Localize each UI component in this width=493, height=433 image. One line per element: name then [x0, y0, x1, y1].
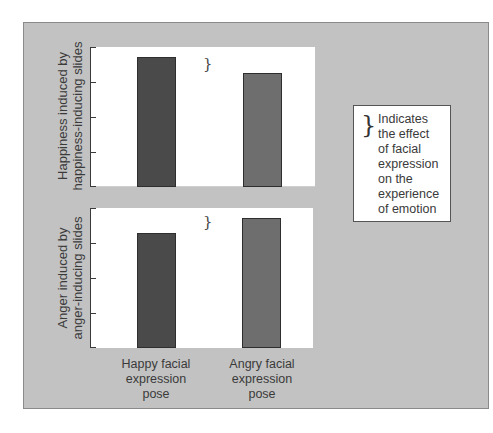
legend-box: } Indicates the effect of facial express… — [353, 105, 451, 222]
top-effect-brace-icon: } — [203, 57, 213, 72]
bottom-y-tick — [90, 208, 96, 209]
x-label-angry-line3: pose — [207, 387, 317, 402]
top-y-tick — [90, 117, 96, 118]
top-y-tick — [90, 82, 96, 83]
top-y-tick — [90, 152, 96, 153]
bottom-y-axis-label-line1: Anger induced by — [55, 193, 70, 363]
bottom-y-tick — [90, 313, 96, 314]
legend-line: experience — [378, 187, 450, 202]
bottom-y-tick — [90, 278, 96, 279]
x-label-happy-line3: pose — [101, 387, 211, 402]
bottom-bar-happy-pose — [137, 233, 176, 348]
bottom-y-tick — [90, 243, 96, 244]
legend-text: Indicates the effect of facial expressio… — [378, 112, 450, 217]
legend-line: expression — [378, 157, 450, 172]
bottom-y-axis-label-line2: anger-inducing slides — [70, 193, 85, 363]
x-label-happy-pose: Happy facial expression pose — [101, 357, 211, 402]
legend-line: on the — [378, 172, 450, 187]
top-bar-angry-pose — [243, 73, 282, 187]
x-label-angry-line1: Angry facial — [207, 357, 317, 372]
top-y-axis-label-line1: Happiness induced by — [55, 31, 70, 201]
legend-brace-icon: } — [361, 113, 376, 137]
legend-line: of emotion — [378, 202, 450, 217]
x-label-angry-line2: expression — [207, 372, 317, 387]
bottom-bar-angry-pose — [242, 218, 281, 348]
bottom-y-tick — [90, 347, 96, 348]
legend-line: the effect — [378, 127, 450, 142]
legend-line: of facial — [378, 142, 450, 157]
x-label-angry-pose: Angry facial expression pose — [207, 357, 317, 402]
top-y-tick — [90, 186, 96, 187]
x-label-happy-line2: expression — [101, 372, 211, 387]
top-y-tick — [90, 47, 96, 48]
legend-line: Indicates — [378, 112, 450, 127]
top-y-axis-label: Happiness induced by happiness-inducing … — [55, 31, 85, 201]
x-label-happy-line1: Happy facial — [101, 357, 211, 372]
bottom-effect-brace-icon: } — [203, 215, 213, 230]
bottom-y-axis-label: Anger induced by anger-inducing slides — [55, 193, 85, 363]
top-bar-happy-pose — [137, 57, 176, 187]
top-y-axis-label-line2: happiness-inducing slides — [70, 31, 85, 201]
